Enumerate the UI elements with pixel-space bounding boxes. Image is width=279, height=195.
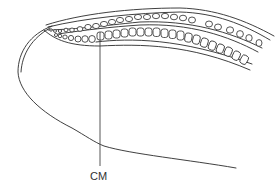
lower-cell-row (54, 28, 249, 65)
outer-outline-inner (21, 28, 50, 72)
cm-label: CM (90, 170, 107, 182)
anatomical-diagram (0, 0, 279, 195)
